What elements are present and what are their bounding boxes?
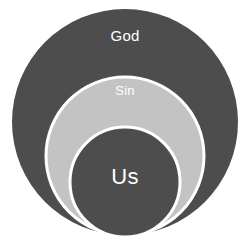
venn-diagram-container: God Sin Us	[0, 0, 250, 250]
label-god: God	[111, 27, 140, 44]
label-sin: Sin	[115, 83, 134, 98]
nested-circles-diagram: God Sin Us	[0, 0, 250, 250]
label-us: Us	[111, 164, 139, 189]
